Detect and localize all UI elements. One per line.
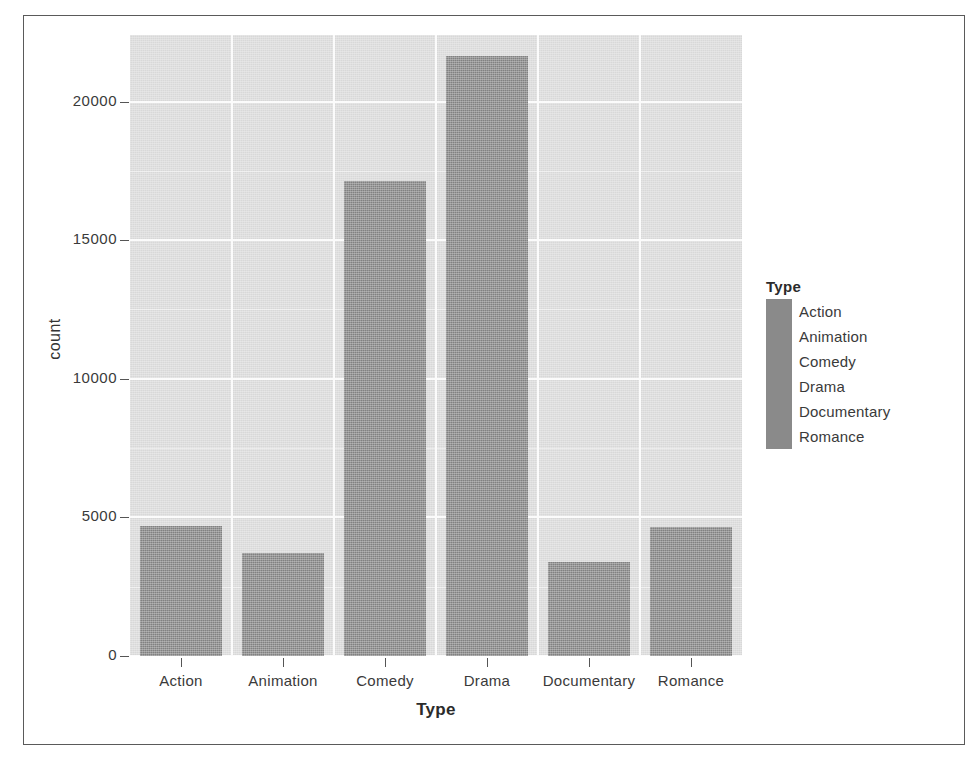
legend-item-romance[interactable]: Romance [766,424,890,449]
x-axis-title: Type [130,700,742,720]
gridline-x-major [333,35,335,656]
legend-items: ActionAnimationComedyDramaDocumentaryRom… [766,299,890,449]
legend-item-drama[interactable]: Drama [766,374,890,399]
legend-item-action[interactable]: Action [766,299,890,324]
legend-swatch-icon [766,374,792,399]
legend-title: Type [766,278,890,295]
plot-panel [130,35,742,656]
gridline-x-major [639,35,641,656]
bar-action[interactable] [140,526,222,656]
y-tick-mark [120,379,129,380]
y-tick-label: 10000 [17,369,117,386]
x-tick-mark [589,658,590,667]
y-tick-label: 20000 [17,92,117,109]
legend-item-comedy[interactable]: Comedy [766,349,890,374]
gridline-x-major [435,35,437,656]
x-tick-label-romance: Romance [621,672,761,689]
bar-animation[interactable] [242,553,324,656]
legend-item-documentary[interactable]: Documentary [766,399,890,424]
legend-item-label: Animation [799,328,868,345]
gridline-x-major [231,35,233,656]
legend-item-label: Action [799,303,842,320]
y-tick-mark [120,517,129,518]
bar-documentary[interactable] [548,562,630,656]
x-tick-mark [283,658,284,667]
y-tick-label: 15000 [17,230,117,247]
legend-item-label: Comedy [799,353,856,370]
bar-romance[interactable] [650,527,732,656]
x-tick-mark [181,658,182,667]
legend: Type ActionAnimationComedyDramaDocumenta… [766,278,890,449]
x-tick-mark [691,658,692,667]
y-tick-mark [120,102,129,103]
legend-item-label: Romance [799,428,865,445]
y-tick-label: 0 [17,646,117,663]
x-tick-mark [385,658,386,667]
legend-item-label: Drama [799,378,845,395]
legend-item-animation[interactable]: Animation [766,324,890,349]
legend-swatch-icon [766,424,792,449]
y-tick-label: 5000 [17,507,117,524]
bar-chart: count 05000100001500020000 Type ActionAn… [0,0,978,762]
legend-swatch-icon [766,299,792,324]
legend-item-label: Documentary [799,403,890,420]
gridline-x-major [537,35,539,656]
x-tick-mark [487,658,488,667]
bar-comedy[interactable] [344,181,426,656]
y-tick-mark [120,656,129,657]
bar-drama[interactable] [446,56,528,656]
legend-swatch-icon [766,324,792,349]
legend-swatch-icon [766,349,792,374]
y-tick-mark [120,240,129,241]
legend-swatch-icon [766,399,792,424]
